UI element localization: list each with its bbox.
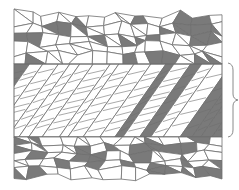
textured-band-region <box>0 64 239 137</box>
curly-brace-icon <box>228 63 238 137</box>
grain <box>14 33 28 42</box>
grain <box>121 166 135 181</box>
top-random-grain-region <box>14 9 222 64</box>
grain <box>57 167 71 179</box>
grain <box>191 15 212 25</box>
bottom-random-grain-region <box>14 137 222 181</box>
grain <box>106 151 121 161</box>
grain <box>145 35 160 41</box>
grain <box>39 137 64 146</box>
grain-structure-diagram <box>0 0 239 190</box>
grain <box>92 51 107 64</box>
